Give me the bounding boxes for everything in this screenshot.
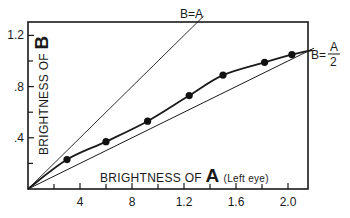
label-half-denominator: 2 [330, 55, 337, 69]
label-b-equals-half-a-prefix: B= [311, 48, 326, 62]
data-point [102, 138, 109, 145]
y-axis-ticks: .4.81.2 [7, 28, 34, 163]
x-tick-label: 1.6 [228, 195, 245, 209]
data-point [144, 118, 151, 125]
data-point [219, 71, 226, 78]
y-tick-label: 1.2 [7, 28, 24, 42]
x-tick-label: 4 [77, 195, 84, 209]
plot-frame [28, 22, 308, 189]
x-tick-label: 1.2 [176, 195, 193, 209]
y-tick-label: .4 [14, 131, 24, 145]
data-point [261, 59, 268, 66]
x-tick-label: 8 [129, 195, 136, 209]
label-half-numerator: A [330, 40, 338, 54]
data-point [186, 92, 193, 99]
line-b-equals-half-a [28, 48, 314, 189]
y-tick-label: .8 [14, 80, 24, 94]
x-axis-label: BRIGHTNESS OF A(Left eye) [100, 165, 269, 186]
x-axis-ticks: 481.21.62.0 [54, 183, 297, 209]
brightness-chart: .4.81.2 481.21.62.0 B=A B= A 2 BRIGHTNES… [0, 0, 350, 218]
label-b-equals-a: B=A [180, 7, 203, 21]
data-point [288, 51, 295, 58]
y-axis-label: BRIGHTNESS OF B [31, 35, 52, 155]
data-points [63, 51, 295, 163]
data-point [63, 156, 70, 163]
x-tick-label: 2.0 [280, 195, 297, 209]
